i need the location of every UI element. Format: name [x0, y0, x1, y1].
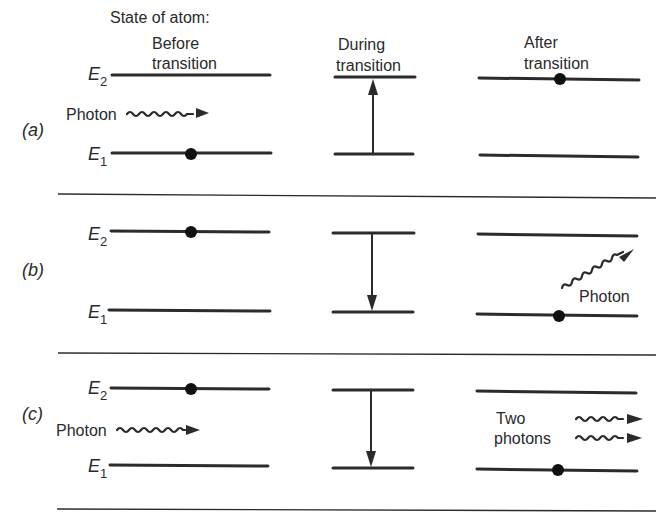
emitted-photon-wave-icon [576, 417, 623, 421]
panel-b: (b) E2 E1 Photon [22, 224, 637, 327]
energy-level-e2-after [477, 391, 636, 393]
emitted-photon-arrowhead-icon [619, 249, 634, 262]
panel-c: (c) E2 E1 Photon Two photons [22, 378, 643, 481]
arrow-up-icon [368, 79, 378, 95]
panel-label-c: (c) [22, 404, 43, 424]
panel-label-a: (a) [22, 120, 44, 140]
energy-level-e2-after [478, 234, 637, 236]
arrow-down-icon [366, 451, 376, 467]
incoming-photon-label: Photon [66, 106, 117, 123]
emitted-photon-arrowhead-icon [627, 414, 643, 424]
photon-wave-icon [117, 428, 188, 432]
energy-level-transition-diagram: State of atom: Before transition During … [0, 0, 666, 518]
panel-divider [58, 194, 656, 198]
level-label-e1: E1 [88, 302, 107, 327]
level-label-e2: E2 [88, 64, 107, 89]
energy-level-e1-before [109, 310, 270, 311]
panel-a: (a) E2 E1 Photon [22, 64, 639, 169]
column-header-before-line2: transition [152, 55, 217, 72]
energy-level-e1-before [110, 465, 268, 466]
photon-wave-icon [127, 112, 193, 116]
electron-dot [552, 464, 564, 476]
panel-divider [58, 353, 656, 355]
column-header-during-line2: transition [336, 57, 401, 74]
electron-dot [185, 383, 197, 395]
electron-dot [554, 73, 566, 85]
energy-level-e1-after [480, 155, 638, 157]
electron-dot [553, 310, 565, 322]
photon-arrowhead-icon [196, 108, 209, 118]
diagram-title: State of atom: [110, 9, 210, 26]
emitted-photons-label-line1: Two [496, 410, 525, 427]
column-header-before-line1: Before [152, 35, 199, 52]
level-label-e2: E2 [88, 224, 107, 249]
level-label-e1: E1 [88, 456, 107, 481]
emitted-photon-wave-icon [576, 436, 623, 440]
panel-label-b: (b) [22, 260, 44, 280]
level-label-e2: E2 [88, 378, 107, 403]
emitted-photon-wave-icon [562, 252, 623, 288]
level-label-e1: E1 [88, 144, 107, 169]
electron-dot [185, 226, 197, 238]
electron-dot [185, 148, 197, 160]
incoming-photon-label: Photon [56, 422, 107, 439]
emitted-photon-label: Photon [579, 288, 630, 305]
panel-divider [57, 509, 656, 511]
photon-arrowhead-icon [186, 425, 200, 435]
column-header-after-line1: After [524, 34, 558, 51]
emitted-photons-label-line2: photons [494, 430, 551, 447]
column-header-after-line2: transition [524, 55, 589, 72]
emitted-photon-arrowhead-icon [627, 433, 642, 443]
column-header-during-line1: During [338, 36, 385, 53]
arrow-down-icon [367, 295, 377, 311]
